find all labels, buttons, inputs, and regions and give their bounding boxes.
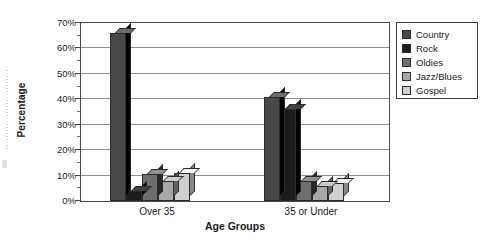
y-tick-major <box>75 98 80 99</box>
plot-area <box>80 22 390 202</box>
legend-item[interactable]: Oldies <box>402 56 477 69</box>
scan-smudge <box>2 160 7 168</box>
y-tick-minor <box>77 60 80 61</box>
y-tick-major <box>75 22 80 23</box>
y-tick-major <box>75 175 80 176</box>
legend-item[interactable]: Jazz/Blues <box>402 70 477 83</box>
legend-label: Rock <box>416 43 438 54</box>
y-tick-label: 30% <box>32 119 76 130</box>
y-tick-major <box>75 47 80 48</box>
y-tick-major <box>75 149 80 150</box>
legend-swatch-icon <box>402 72 411 81</box>
y-tick-minor <box>77 86 80 87</box>
legend-swatch-icon <box>402 44 411 53</box>
y-tick-minor <box>77 111 80 112</box>
legend-label: Country <box>416 29 449 40</box>
bar-side-face <box>296 99 301 196</box>
x-tick-label: Over 35 <box>80 206 234 217</box>
legend-swatch-icon <box>402 30 411 39</box>
y-tick-minor <box>77 35 80 36</box>
bar <box>110 33 126 201</box>
legend-item[interactable]: Gospel <box>402 84 477 97</box>
y-tick-major <box>75 73 80 74</box>
y-tick-minor <box>77 162 80 163</box>
legend: CountryRockOldiesJazz/BluesGospel <box>396 22 478 99</box>
bar-face <box>110 33 126 201</box>
bar-group-container <box>81 23 389 201</box>
y-tick-label: 60% <box>32 42 76 53</box>
legend-label: Gospel <box>416 85 446 96</box>
y-tick-label: 20% <box>32 144 76 155</box>
y-tick-minor <box>77 136 80 137</box>
y-tick-label: 70% <box>32 17 76 28</box>
y-tick-major <box>75 124 80 125</box>
scan-artifact <box>6 70 8 150</box>
legend-item[interactable]: Country <box>402 28 477 41</box>
y-axis-labels: 0%10%20%30%40%50%60%70% <box>28 22 76 202</box>
y-tick-label: 0% <box>32 195 76 206</box>
chart-screenshot: Percentage 0%10%20%30%40%50%60%70% Over … <box>0 0 492 241</box>
legend-item[interactable]: Rock <box>402 42 477 55</box>
y-tick-major <box>75 200 80 201</box>
bar-face <box>264 97 280 201</box>
y-tick-minor <box>77 187 80 188</box>
legend-label: Jazz/Blues <box>416 71 462 82</box>
legend-swatch-icon <box>402 86 411 95</box>
y-tick-label: 40% <box>32 93 76 104</box>
bar-side-face <box>344 173 349 196</box>
x-tick-label: 35 or Under <box>234 206 388 217</box>
x-axis-title: Age Groups <box>80 220 390 232</box>
legend-swatch-icon <box>402 58 411 67</box>
y-tick-label: 50% <box>32 68 76 79</box>
legend-label: Oldies <box>416 57 443 68</box>
bar-side-face <box>280 87 285 196</box>
y-tick-label: 10% <box>32 170 76 181</box>
bar <box>264 97 280 201</box>
bar-side-face <box>126 23 131 196</box>
